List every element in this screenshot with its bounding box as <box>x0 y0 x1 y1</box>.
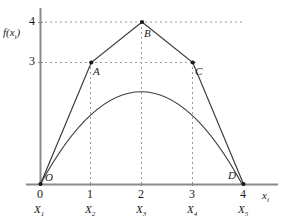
y-axis-title-open: (x <box>6 26 15 38</box>
point-label-O: O <box>45 172 53 183</box>
x-tick-label-2: 2 <box>138 188 144 200</box>
x-sample-label-1: X1 <box>34 204 44 218</box>
x-sample-label-4: X4 <box>187 204 197 218</box>
point-marker-D <box>241 182 245 186</box>
point-label-C: C <box>195 66 202 77</box>
x-sample-label-5-x: X <box>238 203 245 215</box>
x-tick-label-3: 3 <box>189 188 195 200</box>
point-label-D: D <box>228 170 236 181</box>
y-axis-title: f(xi) <box>3 27 20 41</box>
parabola-chord-figure: f(xi) 4 3 0 1 2 3 4 xi X1 X2 X3 X4 X5 O … <box>0 0 284 220</box>
y-axis-title-close: ) <box>17 26 21 38</box>
x-tick-label-0: 0 <box>37 188 43 200</box>
x-sample-label-3-sub: 3 <box>143 210 147 218</box>
point-marker-O <box>38 182 42 186</box>
x-sample-label-1-sub: 1 <box>41 210 45 218</box>
x-sample-label-2: X2 <box>85 204 95 218</box>
point-marker-B <box>140 20 144 24</box>
point-marker-C <box>191 60 195 64</box>
x-sample-label-2-sub: 2 <box>92 210 96 218</box>
x-axis-title-sub: i <box>267 196 269 204</box>
x-tick-label-1: 1 <box>87 188 93 200</box>
x-sample-label-3: X3 <box>136 204 146 218</box>
x-sample-label-3-x: X <box>136 203 143 215</box>
point-marker-A <box>89 60 93 64</box>
x-sample-label-4-sub: 4 <box>194 210 198 218</box>
x-sample-label-2-x: X <box>85 203 92 215</box>
x-sample-label-1-x: X <box>34 203 41 215</box>
x-sample-label-5: X5 <box>238 204 248 218</box>
y-tick-label-4: 4 <box>29 15 35 27</box>
point-label-A: A <box>93 66 100 77</box>
x-sample-label-4-x: X <box>187 203 194 215</box>
x-sample-label-5-sub: 5 <box>245 210 249 218</box>
y-tick-label-3: 3 <box>29 55 35 67</box>
x-tick-label-4: 4 <box>240 188 246 200</box>
x-axis-title: xi <box>262 190 269 204</box>
point-label-B: B <box>144 28 151 39</box>
